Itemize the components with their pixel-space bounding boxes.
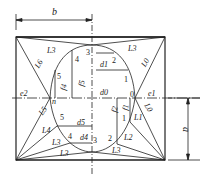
point-1-top: 1 bbox=[124, 75, 128, 84]
label-L3-top-left: L3 bbox=[46, 46, 55, 55]
label-L0-top: L0 bbox=[139, 57, 152, 70]
label-d5: d5 bbox=[77, 118, 85, 127]
point-3-bottom: 3 bbox=[93, 136, 97, 145]
label-f2: f2 bbox=[110, 105, 120, 113]
label-f4: f4 bbox=[59, 83, 69, 91]
point-2-top: 2 bbox=[112, 56, 116, 65]
label-L0-bottom: L0 bbox=[142, 101, 155, 114]
point-3-top: 3 bbox=[86, 48, 90, 57]
point-n: n bbox=[52, 97, 56, 106]
label-e1: e1 bbox=[148, 89, 156, 98]
point-1-bottom: 1 bbox=[122, 114, 126, 123]
label-L3-bottom-left-2: L3 bbox=[59, 149, 68, 158]
point-5-bottom: 5 bbox=[60, 113, 64, 122]
label-d1: d1 bbox=[100, 60, 108, 69]
label-e2: e2 bbox=[20, 89, 28, 98]
point-4-top: 4 bbox=[75, 55, 79, 64]
label-L4: L4 bbox=[41, 126, 50, 135]
point-4-bottom: 4 bbox=[68, 132, 72, 141]
diagram-canvas: b a L3 L3 L6 L0 e2 e1 d1 d0 d5 d4 f4 f5 … bbox=[0, 0, 207, 180]
label-b: b bbox=[52, 6, 57, 17]
point-0: 0 bbox=[130, 90, 134, 99]
label-d0: d0 bbox=[100, 88, 108, 97]
label-L2: L2 bbox=[123, 133, 132, 142]
point-2-bottom: 2 bbox=[108, 134, 112, 143]
label-a: a bbox=[181, 127, 192, 132]
label-f1: f1 bbox=[121, 103, 131, 111]
label-L3-bottom-left: L3 bbox=[51, 138, 60, 147]
label-L3-top-right: L3 bbox=[127, 44, 136, 53]
label-L3-bottom-right: L3 bbox=[111, 146, 120, 155]
label-d4: d4 bbox=[80, 133, 88, 142]
point-5-top: 5 bbox=[57, 72, 61, 81]
label-L5-upper: L5 bbox=[36, 105, 49, 118]
label-f5: f5 bbox=[77, 79, 87, 87]
label-L1: L1 bbox=[133, 113, 142, 122]
